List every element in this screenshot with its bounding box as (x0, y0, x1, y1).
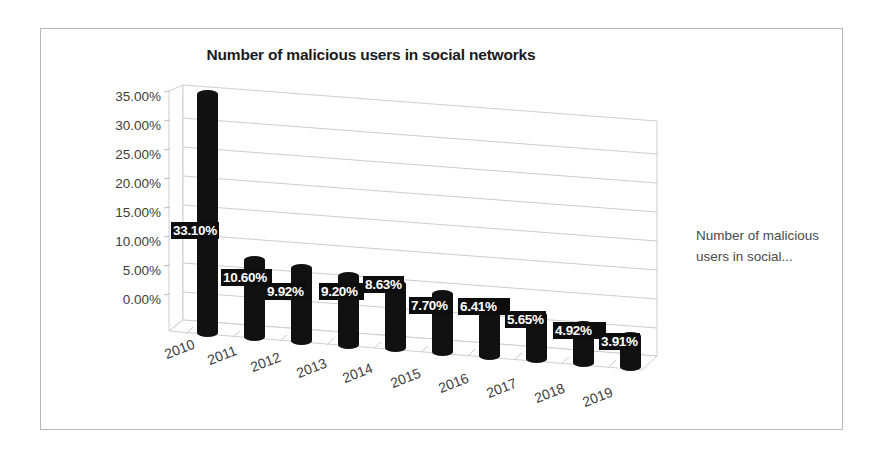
data-label-2014: 8.63% (363, 276, 404, 293)
data-label-2010: 33.10% (171, 222, 219, 239)
data-label-2016: 6.41% (458, 298, 510, 315)
bar-2010[interactable] (197, 90, 218, 337)
legend-item-label: Number of malicious (696, 225, 844, 246)
chart-frame: Number of malicious users in social netw… (40, 28, 843, 430)
bar-2012[interactable] (291, 264, 312, 345)
data-label-2013: 9.20% (319, 283, 364, 300)
legend-item-label-continued: users in social... (696, 246, 844, 267)
wall-left (169, 85, 183, 331)
chart-legend: Number of malicious users in social... (696, 225, 844, 267)
data-label-2015: 7.70% (409, 297, 450, 314)
data-label-2019: 3.91% (599, 333, 640, 350)
data-label-2012: 9.92% (265, 283, 306, 300)
data-label-2017: 5.65% (505, 311, 546, 328)
